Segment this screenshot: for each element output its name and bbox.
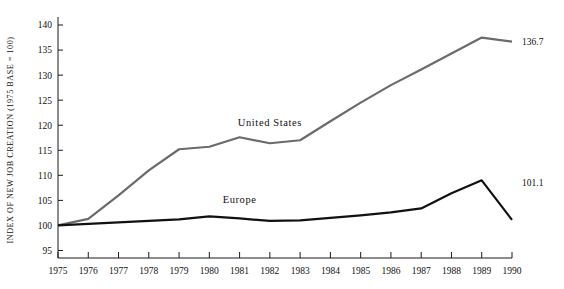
y-tick-label: 95 — [43, 246, 53, 256]
x-tick-label: 1978 — [139, 266, 158, 276]
x-tick-label: 1979 — [170, 266, 189, 276]
x-axis-ticks: 1975197619771978197919801981198219831984… — [49, 252, 522, 276]
x-tick-label: 1984 — [321, 266, 340, 276]
y-tick-label: 110 — [38, 171, 52, 181]
series-line-europe — [58, 180, 512, 225]
y-tick-label: 120 — [38, 121, 53, 131]
job-creation-index-chart: INDEX OF NEW JOB CREATION (1975 BASE = 1… — [0, 0, 564, 289]
x-tick-label: 1985 — [351, 266, 370, 276]
x-tick-label: 1989 — [472, 266, 491, 276]
end-value-label-united-states: 136.7 — [522, 37, 544, 47]
x-tick-label: 1976 — [79, 266, 98, 276]
y-tick-label: 135 — [38, 45, 53, 55]
y-axis-title: INDEX OF NEW JOB CREATION (1975 BASE = 1… — [6, 37, 15, 244]
x-tick-label: 1980 — [200, 266, 219, 276]
y-axis-title-text: INDEX OF NEW JOB CREATION (1975 BASE = 1… — [6, 37, 15, 244]
chart-series-layer — [58, 38, 512, 226]
x-tick-label: 1986 — [381, 266, 400, 276]
chart-annotations-layer: United States136.7Europe101.1 — [223, 37, 544, 205]
y-tick-label: 105 — [38, 196, 53, 206]
x-tick-label: 1987 — [412, 266, 431, 276]
y-axis-ticks: 95100105110115120125130135140 — [38, 20, 63, 255]
x-tick-label: 1981 — [230, 266, 249, 276]
y-tick-label: 130 — [38, 71, 53, 81]
y-tick-label: 115 — [38, 146, 52, 156]
x-tick-label: 1977 — [109, 266, 128, 276]
y-tick-label: 125 — [38, 96, 53, 106]
y-tick-label: 100 — [38, 221, 53, 231]
x-tick-label: 1988 — [442, 266, 461, 276]
x-tick-label: 1990 — [503, 266, 522, 276]
x-tick-label: 1975 — [49, 266, 68, 276]
series-label-europe: Europe — [223, 194, 257, 205]
x-tick-label: 1982 — [260, 266, 279, 276]
end-value-label-europe: 101.1 — [522, 178, 544, 188]
chart-plot-area: INDEX OF NEW JOB CREATION (1975 BASE = 1… — [0, 0, 564, 289]
x-tick-label: 1983 — [291, 266, 310, 276]
series-label-united-states: United States — [238, 117, 302, 128]
y-tick-label: 140 — [38, 20, 53, 30]
